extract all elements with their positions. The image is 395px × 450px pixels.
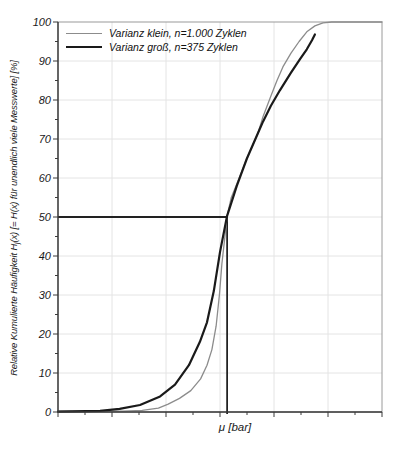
y-axis-title-text-2: (x) [= H(x) für unendlich viele Messwert…	[8, 60, 19, 242]
y-axis-title-text: Relative Kumulierte Häufigkeit H	[8, 244, 19, 376]
legend-label-klein: Varianz klein, n=1.000 Zyklen	[109, 27, 247, 39]
y-axis-title: Relative Kumulierte Häufigkeit Hj(x) [= …	[8, 60, 21, 376]
y-tick-label: 0	[45, 406, 52, 418]
y-tick-label: 40	[39, 250, 52, 262]
legend-item-varianz-klein: Varianz klein, n=1.000 Zyklen	[66, 26, 247, 40]
y-tick-label: 20	[38, 328, 52, 340]
legend-line-swatch-klein	[66, 33, 102, 34]
cdf-figure: 0102030405060708090100 Relative Kumulier…	[0, 0, 395, 450]
curve-series-1	[58, 35, 315, 412]
legend: Varianz klein, n=1.000 Zyklen Varianz gr…	[66, 26, 247, 54]
y-tick-label: 30	[39, 289, 52, 301]
y-tick-label: 80	[39, 94, 52, 106]
plot-canvas: 0102030405060708090100	[0, 0, 395, 450]
y-tick-label: 70	[39, 133, 52, 145]
y-tick-label: 100	[33, 16, 52, 28]
y-tick-label: 60	[39, 172, 52, 184]
y-tick-label: 10	[39, 367, 52, 379]
legend-line-swatch-gross	[66, 46, 102, 48]
legend-label-gross: Varianz groß, n=375 Zyklen	[109, 41, 238, 53]
x-axis-title: μ [bar]	[175, 421, 295, 433]
y-tick-label: 50	[39, 211, 52, 223]
y-tick-label: 90	[39, 55, 52, 67]
legend-item-varianz-gross: Varianz groß, n=375 Zyklen	[66, 40, 247, 54]
